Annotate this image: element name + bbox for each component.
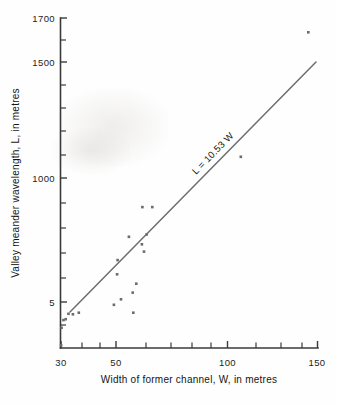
data-point	[132, 311, 135, 314]
y-tick-label-500: 5	[49, 297, 55, 308]
figure-container: 1700 1500 1000 5 30 50 100 150	[0, 0, 337, 404]
data-point	[143, 250, 146, 253]
data-point	[131, 291, 134, 294]
data-point	[307, 31, 310, 34]
scatter-plot: 1700 1500 1000 5 30 50 100 150	[0, 0, 337, 404]
y-tick-label-1000: 1000	[32, 173, 55, 184]
x-tick-label-30: 30	[55, 357, 66, 368]
data-point	[116, 273, 119, 276]
data-point	[120, 298, 123, 301]
data-point	[141, 206, 144, 209]
y-axis: 1700 1500 1000 5	[32, 13, 67, 349]
x-axis-title: Width of former channel, W, in metres	[101, 374, 278, 385]
data-point	[113, 304, 116, 307]
y-tick-label-1700: 1700	[32, 13, 55, 24]
x-axis: 30 50 100 150	[55, 341, 325, 368]
data-point	[141, 243, 144, 246]
x-tick-label-150: 150	[308, 357, 325, 368]
data-point	[128, 236, 131, 239]
data-points-group	[60, 31, 310, 347]
x-tick-label-50: 50	[110, 357, 121, 368]
data-point	[67, 313, 70, 316]
data-point	[145, 233, 148, 236]
data-point	[72, 313, 75, 316]
regression-equation-label: L = 10.53 W	[190, 130, 236, 177]
y-axis-title: Valley meander wavelength, L, in metres	[10, 88, 21, 278]
data-point	[240, 156, 243, 159]
regression-fit-line	[70, 62, 316, 312]
data-point	[135, 282, 138, 285]
data-point	[116, 259, 119, 262]
x-tick-label-100: 100	[219, 357, 236, 368]
data-point	[60, 327, 63, 330]
data-point	[60, 344, 63, 347]
data-point	[78, 311, 81, 314]
data-point	[151, 206, 154, 209]
data-point	[64, 318, 67, 321]
y-tick-label-1500: 1500	[32, 57, 55, 68]
